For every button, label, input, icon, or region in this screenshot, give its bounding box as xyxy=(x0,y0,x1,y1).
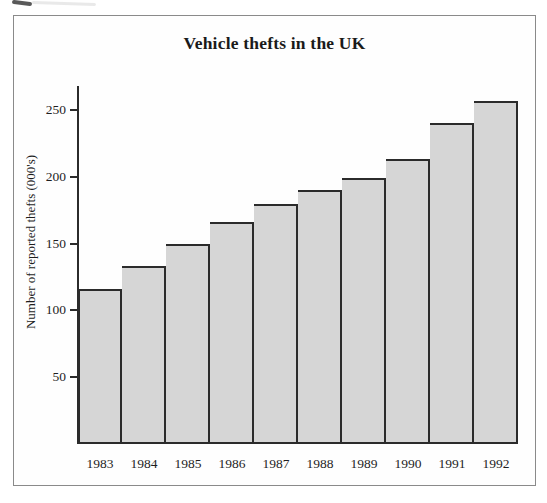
x-label-1985: 1985 xyxy=(166,455,210,473)
x-axis-line xyxy=(77,442,518,444)
bar-1991 xyxy=(430,123,474,444)
x-label-1984: 1984 xyxy=(122,455,166,473)
y-tick-label-50: 50 xyxy=(24,368,66,386)
y-tick-label-200: 200 xyxy=(24,168,66,186)
bar-1984 xyxy=(122,266,166,444)
plot-area: Vehicle thefts in the UK Number of repor… xyxy=(0,0,547,503)
x-label-1986: 1986 xyxy=(210,455,254,473)
bar-1990 xyxy=(386,159,430,444)
bar-1989 xyxy=(342,178,386,444)
x-label-1983: 1983 xyxy=(78,455,122,473)
x-label-1990: 1990 xyxy=(386,455,430,473)
y-tick-50 xyxy=(70,376,77,378)
y-tick-250 xyxy=(70,109,77,111)
x-label-1989: 1989 xyxy=(342,455,386,473)
y-tick-label-100: 100 xyxy=(24,301,66,319)
chart-image: Vehicle thefts in the UK Number of repor… xyxy=(0,0,547,503)
bar-1983 xyxy=(78,289,122,444)
y-tick-200 xyxy=(70,176,77,178)
x-label-1991: 1991 xyxy=(430,455,474,473)
bar-1992 xyxy=(474,101,518,444)
chart-title: Vehicle thefts in the UK xyxy=(13,33,536,54)
bar-1985 xyxy=(166,244,210,444)
y-tick-100 xyxy=(70,309,77,311)
bar-1988 xyxy=(298,190,342,444)
bar-1987 xyxy=(254,204,298,444)
bar-1986 xyxy=(210,222,254,444)
x-label-1992: 1992 xyxy=(474,455,518,473)
y-tick-label-150: 150 xyxy=(24,235,66,253)
x-label-1987: 1987 xyxy=(254,455,298,473)
y-tick-150 xyxy=(70,243,77,245)
x-label-1988: 1988 xyxy=(298,455,342,473)
y-tick-label-250: 250 xyxy=(24,101,66,119)
